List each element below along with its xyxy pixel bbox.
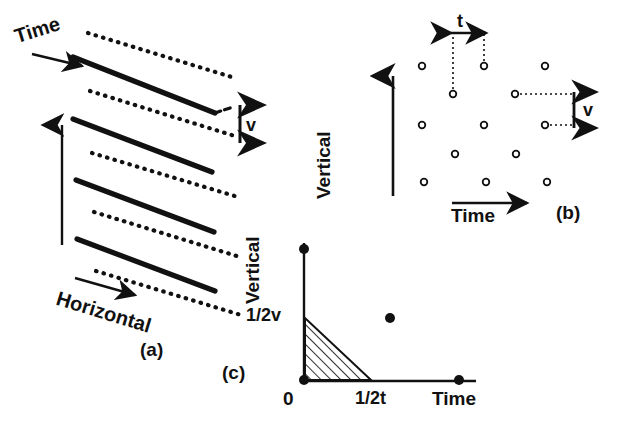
- panel-b-point-grid: [419, 63, 551, 186]
- panel-c-plot: [299, 243, 476, 385]
- panel-c-y-tick-label: 1/2v: [246, 306, 281, 324]
- scientific-figure: Time Vertical Horizontal v (a) Vertical …: [0, 0, 618, 435]
- panel-a-tag: (a): [140, 340, 163, 359]
- panel-a-v-label: v: [246, 116, 256, 134]
- panel-b-v-label: v: [583, 101, 593, 119]
- panel-b-point: [452, 151, 459, 158]
- panel-a-solid-line: [76, 180, 214, 232]
- panel-b-point: [450, 91, 457, 98]
- panel-a-solid-line: [73, 119, 212, 172]
- panel-c-vertical-label: Vertical: [243, 236, 262, 304]
- panel-a-vertical-label: Vertical: [0, 149, 2, 220]
- panel-b-point: [419, 63, 426, 70]
- panel-c-data-dot: [299, 244, 309, 254]
- panel-b-point: [542, 122, 549, 129]
- panel-b-point: [512, 91, 519, 98]
- panel-c-x-tick-label: 1/2t: [355, 389, 386, 407]
- panel-b-point: [481, 63, 488, 70]
- panel-b-t-interval: [451, 31, 486, 94]
- panel-c-origin-dot: [299, 375, 309, 385]
- panel-b-t-label: t: [457, 12, 463, 30]
- panel-c-data-dot: [385, 313, 395, 323]
- panel-a-dotted-line: [92, 153, 238, 197]
- panel-a-graphics: [0, 0, 618, 435]
- panel-b-point: [513, 151, 520, 158]
- panel-b-point: [481, 122, 488, 129]
- panel-b-tag: (b): [556, 203, 580, 222]
- panel-c-data-dot: [454, 375, 464, 385]
- panel-c-tag: (c): [222, 363, 245, 382]
- panel-b-point: [544, 179, 551, 186]
- panel-b-time-label: Time: [451, 206, 495, 225]
- panel-c-origin-label: 0: [283, 389, 294, 408]
- panel-b-point: [483, 179, 490, 186]
- panel-b-point: [419, 122, 426, 129]
- panel-a-offset-hook: [215, 107, 233, 113]
- panel-b-vertical-label: Vertical: [314, 131, 333, 199]
- panel-b-point: [421, 179, 428, 186]
- panel-a-line-group: [73, 33, 241, 315]
- panel-b-point: [542, 63, 549, 70]
- panel-a-dotted-line: [94, 212, 240, 257]
- panel-c-time-label: Time: [432, 389, 476, 408]
